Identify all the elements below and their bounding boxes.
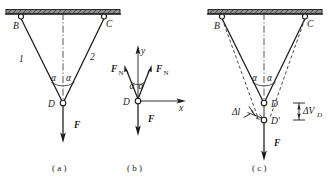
- member-label-1-a: 1: [19, 54, 24, 64]
- force-right-arrow-b: [147, 65, 152, 74]
- panel-caption-a: ( a ): [52, 163, 67, 173]
- node-label-c-c: C: [307, 19, 314, 29]
- joint-d-b[interactable]: [135, 98, 141, 104]
- figure-root: B C D 1 2 α α F ( a ) y x D F N F: [0, 0, 328, 193]
- node-label-b-c: B: [214, 21, 220, 31]
- member-1-a: [21, 19, 62, 102]
- member-2-a: [64, 19, 104, 102]
- node-label-d-c: D: [270, 99, 278, 109]
- force-label-right-symbol-b: F: [155, 64, 163, 74]
- angle-label-left-a: α: [51, 73, 57, 83]
- pin-support-b-a[interactable]: [19, 14, 24, 19]
- panel-c: B C D D′ α α Δl ΔV D F ( c ): [200, 0, 328, 193]
- load-label-f-a: F: [73, 120, 81, 130]
- panel-caption-c: ( c ): [252, 163, 267, 173]
- member-label-2-a: 2: [90, 52, 95, 62]
- angle-label-left-c: α: [252, 73, 258, 83]
- elongation-underline-c: [244, 114, 251, 118]
- force-label-left-b: F N: [110, 64, 124, 77]
- panel-caption-b: ( b ): [127, 163, 142, 173]
- joint-d-displaced-c[interactable]: [261, 117, 267, 123]
- support-bar-c: [207, 10, 323, 15]
- node-label-d-a: D: [47, 99, 55, 109]
- displacement-label-c: ΔV D: [302, 106, 322, 119]
- node-label-d-prime-c: D′: [270, 116, 281, 126]
- elongation-label-c: Δl: [231, 107, 241, 117]
- joint-d-a[interactable]: [60, 100, 66, 106]
- angle-label-right-c: α: [267, 73, 273, 83]
- load-label-f-b: F: [147, 114, 155, 124]
- axis-label-x-b: x: [178, 103, 184, 113]
- force-label-right-b: F N: [155, 64, 169, 77]
- force-label-right-subscript-b: N: [164, 69, 169, 77]
- pin-support-b-c[interactable]: [220, 14, 225, 19]
- displacement-label-subscript-c: D: [316, 111, 322, 119]
- angle-label-right-a: α: [66, 73, 72, 83]
- displacement-label-symbol-c: ΔV: [302, 106, 316, 116]
- joint-d-c[interactable]: [261, 100, 267, 106]
- load-label-f-c: F: [273, 138, 281, 148]
- origin-label-d-b: D: [122, 97, 130, 107]
- member-1-c: [222, 19, 263, 102]
- panel-b: y x D F N F N α α F ( b ): [110, 0, 200, 193]
- force-label-left-subscript-b: N: [119, 69, 124, 77]
- member-2-c: [265, 19, 305, 102]
- node-label-b-a: B: [13, 21, 19, 31]
- force-left-arrow-b: [124, 65, 129, 74]
- axis-label-y-b: y: [140, 46, 146, 56]
- force-label-left-symbol-b: F: [110, 64, 118, 74]
- member-1-deformed-c: [222, 19, 259, 120]
